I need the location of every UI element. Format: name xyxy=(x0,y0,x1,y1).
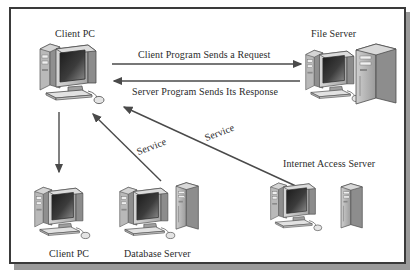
node-internet-access-server[interactable] xyxy=(271,183,363,231)
label-file-server: File Server xyxy=(311,29,356,39)
label-response-flow: Server Program Sends Its Response xyxy=(132,87,278,97)
label-internet-access-server: Internet Access Server xyxy=(283,159,375,169)
node-client-pc-top[interactable] xyxy=(40,44,104,104)
label-client-pc-top: Client PC xyxy=(55,29,95,39)
node-file-server[interactable] xyxy=(306,44,396,104)
network-diagram: Client PC File Server Internet Access Se… xyxy=(0,0,418,278)
label-database-server: Database Server xyxy=(124,249,191,259)
figure-canvas: Client PC File Server Internet Access Se… xyxy=(11,9,404,262)
node-client-pc-bottom[interactable] xyxy=(35,187,90,238)
label-request-flow: Client Program Sends a Request xyxy=(138,50,270,60)
figure-frame: Client PC File Server Internet Access Se… xyxy=(9,7,406,264)
node-database-server[interactable] xyxy=(120,183,199,239)
label-client-pc-bottom: Client PC xyxy=(49,249,89,259)
